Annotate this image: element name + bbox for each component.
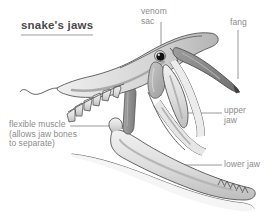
cranium-snout-wrinkle [33,88,57,94]
snake-jaws-diagram: snake's jaws venom sac fang upper jaw lo… [0,0,277,219]
label-venom-sac: venom sac [141,7,167,26]
eye-glint [158,54,160,56]
figure-title-block: snake's jaws [21,19,93,36]
label-fang: fang [230,18,247,28]
tooth [75,103,83,116]
tooth [102,89,111,101]
label-lower-jaw: lower jaw [224,160,260,170]
tooth [84,98,92,111]
title-underline [21,34,93,36]
label-flexible-muscle: flexible muscle (allows jaw bones to sep… [9,120,77,149]
eye-pupil [156,53,164,61]
label-upper-jaw: upper jaw [224,106,246,125]
cranium-snout-wrinkle-2 [20,90,33,94]
page-title: snake's jaws [21,19,93,31]
flexible-muscle-bar [123,86,136,134]
flexible-muscle-group [123,86,136,134]
venom-sac-group [148,62,165,98]
venom-sac-shape [148,62,165,98]
